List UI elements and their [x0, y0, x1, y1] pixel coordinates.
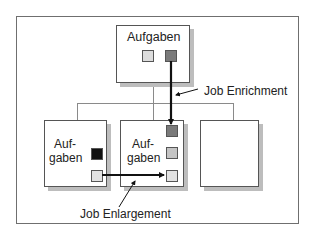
job-enlargement-label: Job Enlargement: [80, 207, 171, 221]
job-enrichment-label: Job Enrichment: [204, 84, 287, 98]
enrichment-pointer: [176, 89, 198, 95]
enlargement-pointer: [119, 181, 135, 207]
arrows-overlay: [0, 0, 312, 242]
